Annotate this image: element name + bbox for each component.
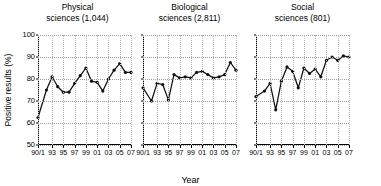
x-tick-mark (63, 145, 64, 148)
x-tick-label: 05 (334, 149, 342, 156)
data-point (79, 74, 82, 77)
x-tick-label: 95 (277, 149, 285, 156)
x-gridline (213, 35, 214, 145)
data-point (206, 73, 209, 76)
x-tick-mark (180, 145, 181, 148)
x-tick-mark (38, 145, 39, 148)
data-point (56, 85, 59, 88)
data-point (112, 69, 115, 72)
x-tick-mark (75, 145, 76, 148)
panel-title-physical: Physical sciences (1,044) (22, 2, 133, 23)
x-gridline (270, 35, 271, 145)
panel-biological-sciences: Biological sciences (2,811) 90/193959799… (133, 0, 246, 186)
data-point (229, 61, 232, 64)
x-tick-label: 93 (266, 149, 274, 156)
x-gridline (86, 35, 87, 145)
x-tick-label: 90/1 (249, 149, 263, 156)
x-gridline (202, 35, 203, 145)
data-point (297, 86, 300, 89)
data-point (308, 72, 311, 75)
x-tick-label: 01 (93, 149, 101, 156)
x-tick-label: 93 (153, 149, 161, 156)
x-tick-mark (213, 145, 214, 148)
data-point (101, 90, 104, 93)
x-gridline (131, 35, 132, 145)
x-gridline (304, 35, 305, 145)
x-tick-label: 95 (164, 149, 172, 156)
x-tick-label: 05 (116, 149, 124, 156)
x-gridline (38, 35, 39, 145)
y-axis-label-wrap: Positive results (%) (7, 35, 21, 145)
x-tick-mark (120, 145, 121, 148)
plot-area-physical: 506070809010090/19395979901030507 (38, 35, 131, 145)
data-point (161, 83, 164, 86)
x-gridline (225, 35, 226, 145)
x-tick-label: 01 (198, 149, 206, 156)
x-tick-mark (97, 145, 98, 148)
y-tick-label: 60 (27, 119, 38, 127)
data-point (319, 75, 322, 78)
x-axis-label: Year (0, 175, 381, 185)
panel-title-biological: Biological sciences (2,811) (133, 2, 246, 23)
x-tick-mark (131, 145, 132, 148)
x-tick-label: 99 (187, 149, 195, 156)
y-tick-label: 90 (27, 53, 38, 61)
x-tick-label: 07 (232, 149, 240, 156)
x-tick-mark (256, 145, 257, 148)
x-gridline (75, 35, 76, 145)
x-tick-mark (281, 145, 282, 148)
x-gridline (120, 35, 121, 145)
x-tick-label: 97 (176, 149, 184, 156)
x-tick-label: 05 (221, 149, 229, 156)
x-gridline (157, 35, 158, 145)
x-tick-label: 07 (345, 149, 353, 156)
data-point (263, 90, 266, 93)
data-point (172, 73, 175, 76)
x-gridline (326, 35, 327, 145)
data-point (67, 91, 70, 94)
x-tick-mark (270, 145, 271, 148)
panel-title-social: Social sciences (801) (246, 2, 359, 23)
x-tick-label: 03 (323, 149, 331, 156)
plot-area-social: 90/19395979901030507 (256, 35, 349, 145)
x-gridline (315, 35, 316, 145)
x-tick-mark (315, 145, 316, 148)
x-tick-mark (168, 145, 169, 148)
x-tick-mark (191, 145, 192, 148)
y-tick-label: 100 (22, 31, 38, 39)
x-tick-label: 97 (71, 149, 79, 156)
x-tick-mark (108, 145, 109, 148)
x-gridline (108, 35, 109, 145)
figure-positive-results: Positive results (%) Physical sciences (… (0, 0, 381, 186)
panel-social-sciences: Social sciences (801) 90/193959799010305… (246, 0, 359, 186)
x-gridline (281, 35, 282, 145)
x-tick-mark (326, 145, 327, 148)
x-tick-label: 90/1 (136, 149, 150, 156)
data-point (274, 108, 277, 111)
y-tick-label: 70 (27, 97, 38, 105)
x-tick-label: 99 (300, 149, 308, 156)
x-tick-mark (225, 145, 226, 148)
data-point (195, 71, 198, 74)
x-gridline (191, 35, 192, 145)
x-gridline (338, 35, 339, 145)
x-tick-label: 99 (82, 149, 90, 156)
x-gridline (97, 35, 98, 145)
data-point (217, 75, 220, 78)
x-tick-mark (86, 145, 87, 148)
x-tick-mark (52, 145, 53, 148)
x-gridline (63, 35, 64, 145)
data-point (285, 65, 288, 68)
x-gridline (180, 35, 181, 145)
panel-physical-sciences: Physical sciences (1,044) 50607080901009… (22, 0, 133, 186)
x-tick-mark (304, 145, 305, 148)
x-tick-label: 03 (105, 149, 113, 156)
x-gridline (293, 35, 294, 145)
y-tick-label: 80 (27, 75, 38, 83)
x-gridline (143, 35, 144, 145)
x-tick-label: 93 (48, 149, 56, 156)
data-point (184, 75, 187, 78)
x-tick-label: 01 (311, 149, 319, 156)
x-tick-label: 90/1 (31, 149, 45, 156)
data-point (124, 71, 127, 74)
